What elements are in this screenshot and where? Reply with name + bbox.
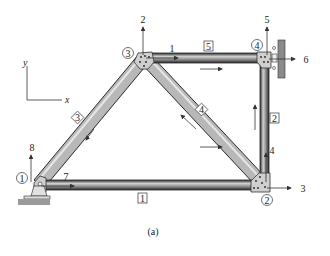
member-label-5: 5 [204,41,213,52]
axes-icon [27,66,62,100]
gusset-node-4 [257,52,271,68]
node-label-1: 1 [17,173,28,184]
dof-label-6: 6 [304,54,309,65]
dof-label-2: 2 [141,14,146,25]
svg-text:1: 1 [140,193,145,204]
x-axis-label: x [64,94,70,105]
figure-caption: (a) [147,226,158,238]
truss-diagram: y x [0,0,330,256]
y-axis-label: y [22,57,28,68]
member-label-1: 1 [138,193,147,204]
member-2 [260,60,269,187]
node-label-3: 3 [123,48,134,59]
svg-text:2: 2 [265,195,270,206]
dof-label-7: 7 [64,171,69,182]
node-label-2: 2 [262,195,273,206]
svg-text:3: 3 [75,112,80,123]
svg-text:5: 5 [206,41,211,52]
pin-support-icon [18,186,50,205]
svg-text:3: 3 [126,48,131,59]
node-label-4: 4 [252,40,263,51]
dof-label-4: 4 [270,145,275,156]
svg-text:4: 4 [255,40,260,51]
svg-text:4: 4 [199,104,204,115]
dof-label-5: 5 [265,14,270,25]
member-1 [40,180,264,190]
member-4 [140,54,266,186]
svg-text:1: 1 [20,173,25,184]
svg-text:2: 2 [272,113,277,124]
member-3 [34,54,149,188]
member-label-2: 2 [270,113,279,124]
dof-label-3: 3 [301,183,306,194]
dof-label-1: 1 [170,43,175,54]
dof-label-8: 8 [30,142,35,153]
